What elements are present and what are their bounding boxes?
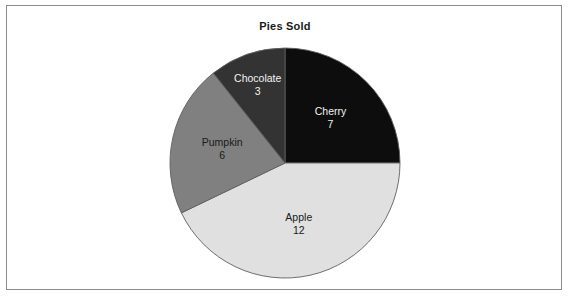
pie-chart-svg [7,6,563,291]
screenshot-root: Pies Sold Cherry 7 Apple 12 Pumpkin 6 Ch… [0,0,570,298]
pie-slice-group [170,48,400,278]
chart-frame: Pies Sold Cherry 7 Apple 12 Pumpkin 6 Ch… [6,5,562,290]
pie-slice-cherry [285,48,400,163]
pie-chart: Cherry 7 Apple 12 Pumpkin 6 Chocolate 3 [7,6,563,291]
